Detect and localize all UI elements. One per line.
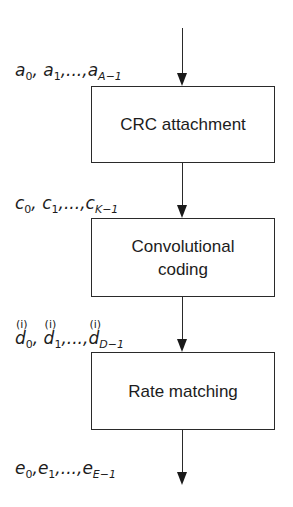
arrow-conv-to-rate-head-icon — [177, 339, 187, 352]
signal-label-crc-output: c0, c1,...,cK−1 — [15, 195, 118, 215]
channel-coding-flowchart: a0, a1,...,aA−1 CRC attachment c0, c1,..… — [0, 0, 293, 507]
arrow-crc-to-conv-head-icon — [177, 205, 187, 218]
rate-matching-block: Rate matching — [91, 352, 275, 430]
crc-attachment-label: CRC attachment — [120, 113, 246, 136]
arrow-conv-to-rate-line — [182, 297, 183, 340]
arrow-input-head-icon — [177, 73, 187, 86]
convolutional-coding-label-line1: Convolutional — [131, 235, 234, 258]
convolutional-coding-block: Convolutional coding — [91, 218, 275, 297]
crc-attachment-block: CRC attachment — [91, 86, 275, 163]
signal-label-input: a0, a1,...,aA−1 — [15, 62, 122, 82]
arrow-output-line — [182, 430, 183, 473]
arrow-output-head-icon — [177, 472, 187, 485]
convolutional-coding-label-line2: coding — [131, 258, 234, 281]
signal-label-output: e0,e1,...,eE−1 — [15, 460, 116, 480]
arrow-input-line — [182, 28, 183, 74]
rate-matching-label: Rate matching — [128, 380, 238, 403]
arrow-crc-to-conv-line — [182, 163, 183, 206]
signal-label-conv-output: d(i)0, d(i)1,...,d(i)D−1 — [15, 330, 124, 347]
